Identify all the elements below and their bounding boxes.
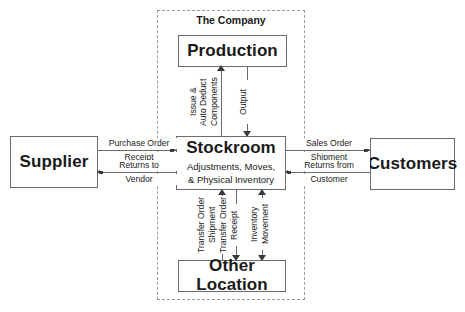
flow-label-purchase-order-line1: Purchase Order — [100, 138, 178, 149]
node-customers[interactable]: Customers — [370, 138, 455, 190]
node-production[interactable]: Production — [178, 35, 287, 67]
flow-line-returns-from-customer — [286, 172, 370, 173]
node-production-title: Production — [187, 42, 278, 61]
flow-arrow-transfer-order-receipt-up — [218, 189, 226, 195]
node-other-location[interactable]: Other Location — [178, 260, 286, 292]
flow-label-inventory-movement-line2: Movement — [260, 198, 271, 250]
flow-label-transfer-order-receipt-line2: Receipt — [229, 204, 240, 246]
flow-arrow-transfer-order-shipment-down — [232, 255, 240, 261]
flow-label-transfer-order-shipment-line2: Shipment — [207, 202, 218, 248]
node-supplier-title: Supplier — [20, 153, 89, 172]
node-supplier[interactable]: Supplier — [10, 136, 98, 188]
node-stockroom-title: Stockroom — [186, 139, 276, 158]
diagram-canvas: The Company Production Stockroom Adjustm… — [0, 0, 465, 312]
node-stockroom-subtitle-line2: & Physical Inventory — [187, 174, 275, 187]
flow-label-inventory-movement-line1: Inventory — [249, 200, 260, 248]
node-customers-title: Customers — [368, 155, 458, 174]
flow-label-returns-from-customer-line2: Customer — [288, 174, 370, 185]
flow-arrow-inventory-movement-down — [258, 255, 266, 261]
node-other-location-title: Other Location — [179, 257, 285, 294]
flow-arrow-output-down — [243, 131, 251, 137]
flow-label-issue-auto-deduct-line2: Auto Deduct — [198, 74, 209, 130]
flow-label-returns-to-vendor-line1: Returns to — [100, 160, 178, 171]
flow-line-sales-order — [286, 150, 370, 151]
flow-label-returns-to-vendor-line2: Vendor — [100, 174, 178, 185]
node-stockroom-subtitle: Adjustments, Moves, & Physical Inventory — [187, 161, 275, 187]
flow-line-returns-to-vendor — [98, 172, 176, 173]
flow-label-returns-from-customer-line1: Returns from — [288, 160, 370, 171]
node-stockroom[interactable]: Stockroom Adjustments, Moves, & Physical… — [176, 136, 286, 190]
flow-label-issue-auto-deduct-line3: Components — [209, 72, 220, 132]
flow-label-transfer-order-shipment-line1: Transfer Order — [196, 196, 207, 254]
flow-line-issue-auto-deduct — [221, 67, 222, 136]
flow-arrow-issue-auto-deduct-up — [217, 65, 225, 71]
flow-arrow-inventory-movement-up — [258, 189, 266, 195]
flow-label-sales-order-line1: Sales Order — [288, 138, 370, 149]
flow-line-purchase-order — [98, 150, 176, 151]
node-stockroom-subtitle-line1: Adjustments, Moves, — [187, 161, 275, 174]
company-boundary-label: The Company — [157, 14, 305, 26]
flow-label-output: Output — [238, 80, 249, 124]
flow-label-transfer-order-receipt-line1: Transfer Order — [218, 196, 229, 254]
